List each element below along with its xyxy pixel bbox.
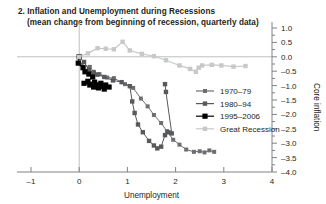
x-axis-tick-label: 0 (77, 177, 82, 186)
chart-figure: 2. Inflation and Unemployment during Rec… (0, 0, 326, 204)
y-axis-tick-label: –1.0 (281, 82, 297, 91)
series-marker (231, 64, 235, 68)
legend-item: 1995–2006 (196, 112, 261, 121)
series-marker (120, 40, 124, 44)
series-marker (92, 80, 97, 85)
x-axis-tick-label: 1 (125, 177, 130, 186)
legend-item: Great Recession (196, 125, 280, 134)
series-marker (90, 74, 95, 79)
series-marker (200, 63, 204, 67)
legend-item-label: Great Recession (220, 125, 280, 134)
legend-item: 1980–94 (196, 100, 252, 109)
legend-swatch-marker (202, 114, 207, 119)
series-marker (102, 86, 107, 91)
series-marker (152, 54, 156, 58)
series-marker (102, 75, 106, 79)
series-marker (112, 47, 116, 51)
series-marker (170, 131, 174, 135)
series-marker (132, 111, 136, 115)
series-marker (155, 146, 159, 150)
y-axis-tick-label: 0.0 (281, 53, 293, 62)
series-marker (111, 78, 115, 82)
legend-swatch-marker (203, 101, 207, 105)
series-marker (82, 60, 86, 64)
legend-item: 1970–79 (196, 87, 252, 96)
y-axis-tick-label: –1.5 (281, 96, 297, 105)
series-marker (159, 121, 163, 125)
zero-reference-lines (17, 22, 272, 172)
series-marker (128, 84, 132, 88)
series-marker (212, 150, 216, 154)
x-axis-tick-label: 2 (173, 177, 178, 186)
series-marker (192, 150, 196, 154)
series-marker (188, 67, 192, 71)
series-marker (77, 55, 81, 59)
series-marker (140, 52, 144, 56)
series-marker (159, 144, 163, 148)
legend-item-label: 1995–2006 (220, 112, 261, 121)
chart-axes: –1012341.00.50.0–0.5–1.0–1.5–2.0–2.5–3.0… (17, 22, 297, 186)
series-marker (76, 61, 81, 66)
y-axis-tick-label: –4.0 (281, 168, 297, 177)
series-marker (130, 99, 134, 103)
x-axis-tick-label: 3 (222, 177, 227, 186)
series-marker (198, 149, 202, 153)
series-marker (146, 104, 150, 108)
legend-swatch-marker (203, 89, 207, 93)
series-marker (207, 148, 211, 152)
legend-item-label: 1980–94 (220, 100, 252, 109)
series-marker (139, 97, 143, 101)
y-axis-tick-label: –0.5 (281, 67, 297, 76)
series-marker (98, 81, 103, 86)
series-marker (141, 130, 145, 134)
series-marker (86, 51, 90, 55)
legend-swatch-marker (203, 127, 207, 131)
series-marker (95, 72, 99, 76)
series-marker (136, 122, 140, 126)
chart-legend: 1970–791980–941995–2006Great Recession (196, 87, 280, 134)
chart-plot: –1012341.00.50.0–0.5–1.0–1.5–2.0–2.5–3.0… (0, 0, 326, 204)
x-axis-tick-label: –1 (27, 177, 36, 186)
y-axis-title: Core inflation (312, 83, 321, 132)
series-marker (171, 138, 175, 142)
series-marker (96, 85, 101, 90)
series-marker (106, 84, 111, 89)
series-marker (184, 148, 188, 152)
series-marker (91, 70, 95, 74)
series-marker (81, 81, 86, 86)
series-marker (147, 139, 151, 143)
series-marker (194, 70, 198, 74)
series-marker (203, 150, 207, 154)
y-axis-tick-label: –3.5 (281, 154, 297, 163)
x-axis-title: Unemployment (124, 191, 180, 200)
y-axis-tick-label: 1.0 (281, 24, 293, 33)
series-marker (164, 58, 168, 62)
series-marker (95, 46, 99, 50)
series-marker (163, 82, 167, 86)
series-marker (152, 113, 156, 117)
series-marker (104, 47, 108, 51)
series-marker (219, 63, 223, 67)
series-marker (164, 90, 168, 94)
series-marker (243, 64, 247, 68)
y-axis-tick-label: –2.5 (281, 125, 297, 134)
series-marker (119, 80, 123, 84)
y-axis-tick-label: –3.0 (281, 139, 297, 148)
series-marker (177, 143, 181, 147)
series-marker (128, 48, 132, 52)
x-axis-tick-label: 4 (270, 177, 275, 186)
series-marker (210, 63, 214, 67)
legend-item-label: 1970–79 (220, 87, 252, 96)
series-marker (177, 63, 181, 67)
y-axis-tick-label: 0.5 (281, 38, 293, 47)
y-axis-tick-label: –2.0 (281, 110, 297, 119)
